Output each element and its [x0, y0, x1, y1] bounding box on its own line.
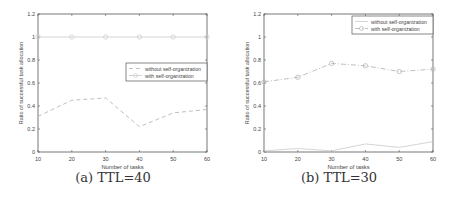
y-tick-label: 0.4	[253, 103, 261, 109]
x-tick-label: 30	[329, 156, 335, 162]
y-tick-label: 0.2	[253, 126, 261, 132]
y-tick-label: 0.8	[27, 57, 35, 63]
y-tick-label: 1.2	[253, 11, 261, 17]
legend-label: without self-organization	[371, 19, 427, 25]
y-tick-label: 0.2	[27, 126, 35, 132]
x-tick-label: 10	[35, 156, 41, 162]
line-chart-b: 10203040506000.20.40.60.811.2Number of t…	[226, 0, 452, 170]
x-tick-label: 50	[396, 156, 402, 162]
legend-label: without self-organization	[145, 66, 201, 72]
y-axis-label: Ratio of successful task allocation	[18, 42, 24, 125]
y-tick-label: 0.6	[253, 80, 261, 86]
y-tick-label: 0	[258, 149, 261, 155]
legend: without self-organizationwith self-organ…	[126, 63, 207, 81]
y-tick-label: 0.8	[253, 57, 261, 63]
x-tick-label: 60	[204, 156, 210, 162]
x-tick-label: 30	[103, 156, 109, 162]
series-line-0	[264, 142, 433, 151]
chart-panel-a: 10203040506000.20.40.60.811.2Number of t…	[0, 0, 226, 199]
y-tick-label: 0	[32, 149, 35, 155]
series-line-0	[38, 98, 207, 127]
x-tick-label: 40	[136, 156, 142, 162]
x-tick-label: 20	[295, 156, 301, 162]
x-tick-label: 40	[362, 156, 368, 162]
chart-caption-a: (a) TTL=40	[0, 170, 226, 185]
legend-label: with self-organization	[145, 73, 194, 79]
x-tick-label: 10	[261, 156, 267, 162]
y-axis-label: Ratio of successful task allocation	[244, 42, 250, 125]
x-tick-label: 60	[430, 156, 436, 162]
y-tick-label: 1	[32, 34, 35, 40]
x-tick-label: 50	[170, 156, 176, 162]
plot-area	[38, 14, 207, 152]
y-tick-label: 0.6	[27, 80, 35, 86]
series-line-1	[264, 63, 433, 81]
legend-label: with self-organization	[371, 26, 420, 32]
chart-caption-b: (b) TTL=30	[226, 170, 452, 185]
y-tick-label: 0.4	[27, 103, 35, 109]
legend: without self-organizationwith self-organ…	[352, 16, 433, 34]
y-tick-label: 1	[258, 34, 261, 40]
plot-area	[264, 14, 433, 152]
y-tick-label: 1.2	[27, 11, 35, 17]
chart-panel-b: 10203040506000.20.40.60.811.2Number of t…	[226, 0, 452, 199]
line-chart-a: 10203040506000.20.40.60.811.2Number of t…	[0, 0, 226, 170]
x-tick-label: 20	[69, 156, 75, 162]
